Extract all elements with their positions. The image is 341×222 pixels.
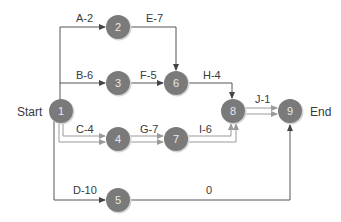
svg-text:6: 6 xyxy=(173,77,179,89)
label-dummy: 0 xyxy=(206,184,212,196)
svg-text:3: 3 xyxy=(115,77,121,89)
label-a: A-2 xyxy=(76,12,93,24)
node-4: 4 xyxy=(106,127,132,153)
label-j: J-1 xyxy=(255,93,270,105)
node-1: 1 xyxy=(49,99,75,125)
label-i: I-6 xyxy=(199,123,212,135)
end-label: End xyxy=(310,105,331,119)
node-2: 2 xyxy=(106,15,132,41)
arrow-h xyxy=(188,83,232,98)
svg-text:1: 1 xyxy=(58,105,64,117)
arrow-i-lower xyxy=(188,124,236,142)
svg-text:7: 7 xyxy=(173,133,179,145)
arrow-e xyxy=(130,27,176,70)
svg-text:8: 8 xyxy=(230,105,236,117)
label-g: G-7 xyxy=(140,123,158,135)
label-d: D-10 xyxy=(73,184,97,196)
svg-text:5: 5 xyxy=(115,194,121,206)
node-5: 5 xyxy=(106,188,132,214)
label-c: C-4 xyxy=(76,123,94,135)
node-6: 6 xyxy=(164,71,190,97)
label-b: B-6 xyxy=(76,69,93,81)
svg-text:4: 4 xyxy=(115,133,121,145)
node-3: 3 xyxy=(106,71,132,97)
svg-text:2: 2 xyxy=(115,21,121,33)
label-e: E-7 xyxy=(146,12,163,24)
node-7: 7 xyxy=(164,127,190,153)
node-9: 9 xyxy=(278,99,304,125)
network-diagram: A-2 B-6 C-4 D-10 E-7 F-5 G-7 H-4 I-6 J-1… xyxy=(0,0,341,222)
label-h: H-4 xyxy=(203,69,221,81)
arrow-a xyxy=(60,27,105,100)
label-f: F-5 xyxy=(140,69,157,81)
start-label: Start xyxy=(17,105,43,119)
node-8: 8 xyxy=(221,99,247,125)
svg-text:9: 9 xyxy=(287,105,293,117)
